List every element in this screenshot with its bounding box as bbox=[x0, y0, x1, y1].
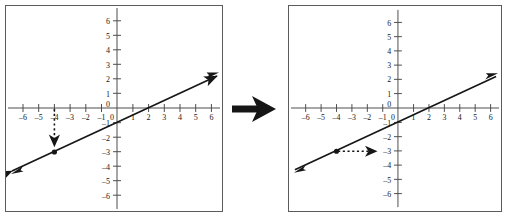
y-tick-labels-left: 6 5 4 3 2 1 0 –1 –2 –3 –4 –5 –6 bbox=[101, 17, 110, 201]
svg-text:–6: –6 bbox=[382, 190, 391, 199]
svg-text:2: 2 bbox=[387, 75, 391, 84]
svg-text:–3: –3 bbox=[101, 148, 110, 157]
svg-text:–6: –6 bbox=[301, 113, 310, 122]
coordinate-plane-left: –6 –5 –4 –3 –2 –1 0 1 2 3 4 5 6 6 5 4 3 … bbox=[6, 6, 222, 211]
svg-text:0: 0 bbox=[387, 100, 391, 109]
svg-text:4: 4 bbox=[387, 47, 391, 56]
svg-text:–6: –6 bbox=[18, 113, 27, 122]
svg-text:2: 2 bbox=[427, 113, 431, 122]
svg-text:–4: –4 bbox=[101, 163, 110, 172]
svg-text:–2: –2 bbox=[81, 113, 90, 122]
svg-text:–5: –5 bbox=[101, 177, 110, 186]
svg-text:3: 3 bbox=[442, 113, 446, 122]
x-tick-labels-right: –6 –5 –4 –3 –2 –1 0 1 2 3 4 5 6 bbox=[301, 113, 493, 122]
svg-text:4: 4 bbox=[178, 113, 182, 122]
plotted-point bbox=[334, 149, 339, 154]
svg-text:2: 2 bbox=[106, 75, 110, 84]
svg-text:–2: –2 bbox=[101, 134, 110, 143]
svg-text:6: 6 bbox=[106, 17, 110, 26]
axes-right bbox=[291, 10, 499, 207]
svg-text:4: 4 bbox=[106, 46, 110, 55]
svg-text:5: 5 bbox=[194, 113, 198, 122]
svg-text:–3: –3 bbox=[65, 113, 74, 122]
svg-text:–4: –4 bbox=[382, 161, 391, 170]
two-graph-figure: –6 –5 –4 –3 –2 –1 0 1 2 3 4 5 6 6 5 4 3 … bbox=[0, 0, 508, 220]
svg-text:–5: –5 bbox=[316, 113, 325, 122]
coordinate-plane-right: –6 –5 –4 –3 –2 –1 0 1 2 3 4 5 6 6 5 4 3 … bbox=[289, 6, 501, 211]
svg-text:6: 6 bbox=[489, 113, 493, 122]
svg-text:3: 3 bbox=[162, 113, 166, 122]
svg-text:3: 3 bbox=[387, 61, 391, 70]
svg-text:0: 0 bbox=[391, 113, 395, 122]
plotted-point bbox=[52, 149, 57, 154]
svg-text:4: 4 bbox=[458, 113, 462, 122]
svg-text:5: 5 bbox=[387, 33, 391, 42]
graph-panel-left: –6 –5 –4 –3 –2 –1 0 1 2 3 4 5 6 6 5 4 3 … bbox=[5, 5, 223, 212]
svg-text:2: 2 bbox=[147, 113, 151, 122]
graph-panel-right: –6 –5 –4 –3 –2 –1 0 1 2 3 4 5 6 6 5 4 3 … bbox=[288, 5, 502, 212]
axes-left bbox=[8, 8, 220, 209]
svg-text:6: 6 bbox=[387, 19, 391, 28]
svg-text:0: 0 bbox=[110, 113, 114, 122]
svg-text:1: 1 bbox=[387, 90, 391, 99]
svg-text:6: 6 bbox=[209, 113, 213, 122]
svg-text:–5: –5 bbox=[382, 176, 391, 185]
plotted-line bbox=[12, 76, 217, 171]
svg-text:–5: –5 bbox=[34, 113, 43, 122]
svg-text:5: 5 bbox=[106, 32, 110, 41]
svg-text:–3: –3 bbox=[347, 113, 356, 122]
y-tick-labels-right: 6 5 4 3 2 1 0 –1 –2 –3 –4 –5 –6 bbox=[382, 19, 391, 199]
svg-text:1: 1 bbox=[106, 90, 110, 99]
svg-text:–2: –2 bbox=[382, 133, 391, 142]
svg-text:3: 3 bbox=[106, 61, 110, 70]
right-arrow-icon bbox=[232, 96, 276, 122]
svg-text:–2: –2 bbox=[362, 113, 371, 122]
svg-text:–4: –4 bbox=[332, 113, 341, 122]
x-tick-labels-left: –6 –5 –4 –3 –2 –1 0 1 2 3 4 5 6 bbox=[18, 113, 213, 122]
svg-text:0: 0 bbox=[106, 100, 110, 109]
plotted-line bbox=[295, 77, 496, 170]
svg-text:–6: –6 bbox=[101, 192, 110, 201]
svg-text:5: 5 bbox=[473, 113, 477, 122]
svg-text:–3: –3 bbox=[382, 147, 391, 156]
transition-arrow bbox=[232, 92, 282, 128]
